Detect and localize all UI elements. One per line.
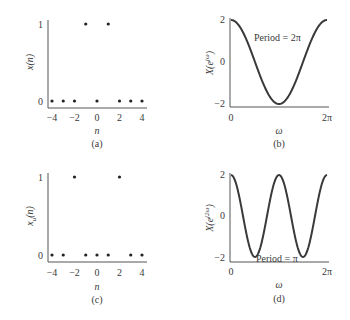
data-point bbox=[84, 22, 87, 25]
data-point bbox=[107, 22, 110, 25]
period-annotation: Period = π bbox=[256, 253, 298, 264]
xtick: 0 bbox=[95, 112, 100, 123]
ytick: 1 bbox=[38, 172, 43, 183]
panel-b: 2 0 −2 0 2π ω (b) Period = 2π X(ejω) bbox=[203, 14, 332, 150]
ytick: 1 bbox=[38, 19, 43, 30]
stem-points-a bbox=[50, 22, 143, 102]
data-point bbox=[118, 99, 121, 102]
xtick: −2 bbox=[69, 267, 80, 278]
figure: 1 0 −4 −2 0 2 4 n (a) x(n) 2 0 −2 0 2π ω… bbox=[0, 0, 350, 320]
panel-d: 2 0 −2 0 2π ω (d) Period = π X(ej2ω) bbox=[203, 169, 332, 305]
data-point bbox=[118, 175, 121, 178]
curve-d bbox=[231, 175, 327, 257]
xtick: 2 bbox=[117, 112, 122, 123]
data-point bbox=[140, 99, 143, 102]
data-point bbox=[62, 253, 65, 256]
xtick: 4 bbox=[140, 267, 145, 278]
x-axis-label: ω bbox=[275, 279, 282, 290]
data-point bbox=[129, 253, 132, 256]
xtick: 2π bbox=[322, 266, 332, 277]
caption-a: (a) bbox=[91, 138, 102, 150]
ytick: 0 bbox=[38, 250, 43, 261]
ytick: 0 bbox=[38, 96, 43, 107]
xtick: 0 bbox=[95, 267, 100, 278]
ytick: 0 bbox=[220, 210, 225, 221]
xtick: −4 bbox=[47, 112, 58, 123]
y-axis-label: X(ej2ω) bbox=[203, 204, 216, 233]
ytick: 2 bbox=[220, 14, 225, 25]
caption-b: (b) bbox=[273, 138, 285, 150]
xtick: 0 bbox=[229, 266, 234, 277]
xtick: −4 bbox=[47, 267, 58, 278]
data-point bbox=[73, 175, 76, 178]
caption-c: (c) bbox=[91, 294, 102, 306]
axes-a bbox=[48, 20, 147, 108]
x-axis-label: n bbox=[95, 281, 100, 292]
data-point bbox=[62, 99, 65, 102]
xtick: 2π bbox=[322, 112, 332, 123]
data-point bbox=[73, 99, 76, 102]
ytick: 0 bbox=[220, 56, 225, 67]
y-axis-label: X(ejω) bbox=[203, 50, 216, 76]
data-point bbox=[107, 253, 110, 256]
period-annotation: Period = 2π bbox=[254, 32, 301, 43]
data-point bbox=[50, 99, 53, 102]
data-point bbox=[50, 253, 53, 256]
xtick: 2 bbox=[117, 267, 122, 278]
data-point bbox=[84, 253, 87, 256]
panel-c: 1 0 −4 −2 0 2 4 n (c) xu(n) bbox=[24, 172, 147, 306]
xtick: 0 bbox=[229, 112, 234, 123]
ytick: 2 bbox=[220, 169, 225, 180]
panel-a: 1 0 −4 −2 0 2 4 n (a) x(n) bbox=[24, 19, 147, 150]
xtick: −2 bbox=[69, 112, 80, 123]
caption-d: (d) bbox=[273, 293, 285, 305]
ytick: −2 bbox=[214, 252, 225, 263]
stem-points-c bbox=[50, 175, 143, 256]
x-axis-label: n bbox=[95, 125, 100, 136]
ytick: −2 bbox=[214, 98, 225, 109]
data-point bbox=[129, 99, 132, 102]
data-point bbox=[140, 253, 143, 256]
data-point bbox=[95, 253, 98, 256]
x-axis-label: ω bbox=[275, 125, 282, 136]
xtick: 4 bbox=[140, 112, 145, 123]
axes-c bbox=[48, 173, 147, 262]
y-axis-label: xu(n) bbox=[24, 206, 38, 227]
data-point bbox=[95, 99, 98, 102]
y-axis-label: x(n) bbox=[24, 53, 36, 71]
